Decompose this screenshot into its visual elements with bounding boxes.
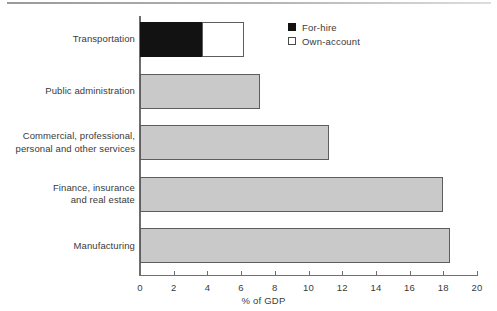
- x-tick: [241, 271, 242, 276]
- x-tick-label: 20: [472, 282, 483, 293]
- bar-segment-own-account[interactable]: [202, 22, 244, 57]
- x-axis-title-text: % of GDP: [242, 295, 286, 306]
- bar-segment-total[interactable]: [140, 177, 443, 212]
- x-tick-label: 16: [404, 282, 415, 293]
- category-label-line: and real estate: [0, 194, 135, 207]
- category-label-0: Transportation: [0, 33, 135, 46]
- legend-label-for-hire: For-hire: [302, 22, 337, 33]
- x-tick-label: 8: [272, 282, 277, 293]
- x-tick-label: 14: [370, 282, 381, 293]
- category-label-3: Finance, insuranceand real estate: [0, 182, 135, 207]
- category-label-line: Public administration: [0, 85, 135, 98]
- category-label-line: Commercial, professional,: [0, 130, 135, 143]
- x-tick: [207, 271, 208, 276]
- category-label-line: Finance, insurance: [0, 182, 135, 195]
- category-label-line: personal and other services: [0, 143, 135, 156]
- x-tick-label: 18: [438, 282, 449, 293]
- x-tick-label: 0: [137, 282, 142, 293]
- plot-area: [140, 16, 477, 275]
- x-tick: [140, 271, 141, 276]
- top-divider-rule: [7, 2, 491, 4]
- legend-label-own-account: Own-account: [302, 36, 360, 47]
- bar-segment-total[interactable]: [140, 125, 329, 160]
- bar-segment-total[interactable]: [140, 74, 260, 109]
- x-tick: [376, 271, 377, 276]
- bar-segment-total[interactable]: [140, 228, 450, 263]
- legend-item-own-account[interactable]: Own-account: [288, 34, 360, 48]
- x-tick-label: 12: [337, 282, 348, 293]
- x-tick: [342, 271, 343, 276]
- chart-legend: For-hire Own-account: [288, 20, 360, 48]
- bar-chart: 02468101214161820 TransportationPublic a…: [0, 0, 497, 311]
- category-label-1: Public administration: [0, 85, 135, 98]
- bar-segment-for-hire[interactable]: [140, 22, 202, 57]
- category-label-2: Commercial, professional,personal and ot…: [0, 130, 135, 155]
- x-tick: [477, 271, 478, 276]
- x-axis-title: % of GDP: [0, 295, 497, 306]
- x-tick: [410, 271, 411, 276]
- x-tick: [443, 271, 444, 276]
- category-label-line: Manufacturing: [0, 240, 135, 253]
- x-tick: [174, 271, 175, 276]
- legend-item-for-hire[interactable]: For-hire: [288, 20, 360, 34]
- x-tick-label: 4: [205, 282, 210, 293]
- x-tick: [275, 271, 276, 276]
- x-tick: [309, 271, 310, 276]
- category-label-4: Manufacturing: [0, 240, 135, 253]
- legend-swatch-hollow-icon: [288, 37, 296, 45]
- category-label-line: Transportation: [0, 33, 135, 46]
- x-tick-label: 10: [303, 282, 314, 293]
- x-tick-label: 6: [238, 282, 243, 293]
- x-tick-label: 2: [171, 282, 176, 293]
- legend-swatch-filled-icon: [288, 23, 296, 31]
